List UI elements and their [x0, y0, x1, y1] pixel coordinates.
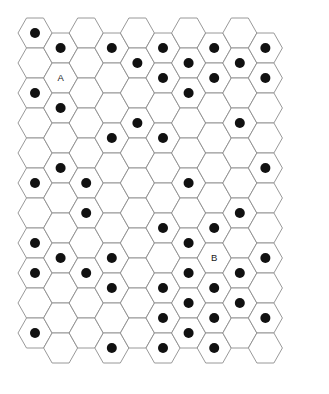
hex-cell-dot: [260, 313, 270, 323]
hex-cell-dot: [132, 58, 142, 68]
hex-cell-dot: [81, 268, 91, 278]
hex-cell-dot: [235, 298, 245, 308]
hex-cell-dot: [260, 73, 270, 83]
hex-cell-dot: [235, 208, 245, 218]
hex-cell-dot: [30, 88, 40, 98]
hex-grid-canvas: AB: [0, 0, 329, 394]
hex-cell-dot: [56, 103, 66, 113]
hex-cell-dot: [30, 238, 40, 248]
hex-cell-dot: [260, 163, 270, 173]
hex-cell-dot: [260, 43, 270, 53]
hex-cell-dot: [81, 178, 91, 188]
hex-cell-dot: [30, 28, 40, 38]
hex-cell-dot: [158, 43, 168, 53]
hex-cell-dot: [209, 343, 219, 353]
hex-cell-dot: [184, 268, 194, 278]
hex-cell-dot: [158, 313, 168, 323]
hex-cell-layer: [18, 18, 282, 363]
hex-cell-dot: [235, 268, 245, 278]
hex-cell-dot: [30, 268, 40, 278]
hex-cell-dot: [209, 73, 219, 83]
hex-cell-dot: [107, 253, 117, 263]
hex-cell-dot: [56, 43, 66, 53]
hex-cell-label-a: A: [57, 72, 64, 83]
hex-cell-dot: [158, 223, 168, 233]
hex-cell-dot: [235, 118, 245, 128]
hex-cell-dot: [209, 283, 219, 293]
hex-cell-dot: [158, 73, 168, 83]
hex-cell-dot: [81, 208, 91, 218]
hex-cell-dot: [56, 253, 66, 263]
hex-cell-dot: [184, 178, 194, 188]
hex-cell-dot: [107, 43, 117, 53]
hex-cell-dot: [209, 313, 219, 323]
hex-cell-dot: [209, 223, 219, 233]
hex-cell-dot: [158, 133, 168, 143]
hex-cell-dot: [184, 328, 194, 338]
hex-cell-dot: [184, 88, 194, 98]
hex-cell-dot: [184, 58, 194, 68]
hex-cell-dot: [30, 178, 40, 188]
hex-cell-dot: [30, 328, 40, 338]
hex-cell-dot: [184, 238, 194, 248]
hex-cell-dot: [107, 133, 117, 143]
hex-cell-dot: [132, 118, 142, 128]
hex-cell-dot: [56, 163, 66, 173]
hex-cell-dot: [209, 43, 219, 53]
hex-grid-figure: AB: [0, 0, 329, 394]
hex-cell-dot: [107, 283, 117, 293]
hex-cell-dot: [235, 58, 245, 68]
hex-cell-dot: [184, 298, 194, 308]
hex-cell-dot: [260, 253, 270, 263]
hex-cell-dot: [158, 283, 168, 293]
hex-cell-dot: [158, 343, 168, 353]
hex-cell-dot: [107, 343, 117, 353]
hex-cell-label-b: B: [211, 252, 217, 263]
